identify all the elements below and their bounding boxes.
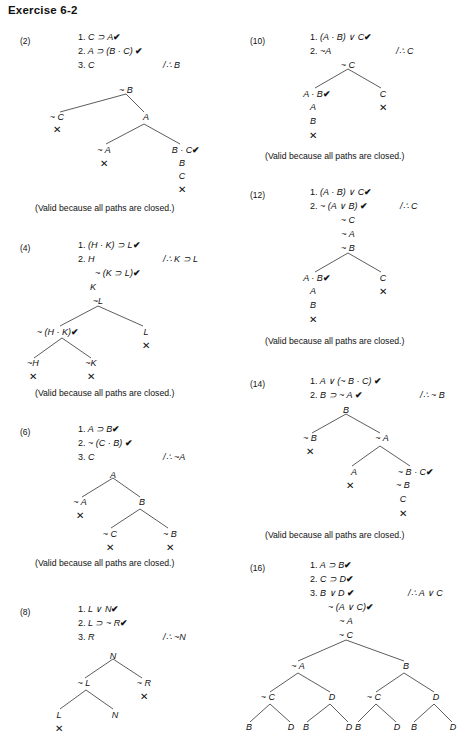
problem-number-2: (2): [20, 36, 30, 46]
premise-text: B ∨ D: [320, 588, 345, 598]
tree-node: ~ A: [73, 497, 86, 507]
premise-line: 1. A ∨ (~ B · C) ✔: [310, 376, 382, 386]
tree-node: ~ C: [341, 60, 355, 70]
closed-path-mark: ✕: [166, 542, 174, 553]
premise-line: 1. C ⊃ A✔: [78, 32, 121, 42]
tree-branches: [0, 0, 464, 738]
closed-path-mark: ✕: [76, 510, 84, 521]
tree-node: A · B✔: [303, 273, 331, 283]
conclusion: /∴ B: [163, 60, 180, 70]
premise-text: A ∨ (~ B · C): [320, 376, 372, 386]
premise-line: 3. B ∨ D ✔: [310, 588, 355, 598]
tree-node: ~ C: [103, 529, 117, 539]
line-number: 2.: [310, 390, 318, 400]
line-number: 3.: [78, 60, 86, 70]
premise-line: 3. C: [78, 60, 95, 70]
closed-path-mark: ✕: [309, 130, 317, 141]
tree-branches: [0, 0, 464, 738]
premise-line: 2. ~A: [310, 46, 331, 56]
validity-caption: (Valid because all paths are closed.): [35, 388, 174, 398]
tree-node: ~ C: [367, 692, 381, 702]
check-icon: ✔: [323, 273, 331, 283]
check-icon: ✔: [112, 424, 120, 434]
premise-text: (A · B) ∨ C: [320, 32, 364, 42]
line-number: 2.: [78, 438, 86, 448]
check-icon: ✔: [125, 438, 133, 448]
tree-branches: [0, 0, 464, 738]
tree-node: ~ B: [303, 433, 317, 443]
closed-path-mark: ✕: [379, 286, 387, 297]
tree-node: C: [179, 171, 186, 181]
tree-node: ~ C: [341, 215, 355, 225]
line-number: 2.: [310, 201, 318, 211]
line-number: 1.: [310, 32, 318, 42]
premise-line: 2. ~ (C · B) ✔: [78, 438, 133, 448]
problem-number-4: (4): [20, 243, 30, 253]
tree-node: ~ (A ∨ C)✔: [328, 602, 374, 612]
premise-text: R: [88, 632, 95, 642]
tree-node: A: [310, 286, 316, 296]
tree-node: D: [288, 722, 295, 732]
premise-line: 3. R: [78, 632, 95, 642]
premise-text: L ∨ N: [88, 604, 111, 614]
premise-text: C: [88, 60, 95, 70]
closed-path-mark: ✕: [53, 124, 61, 135]
problem-number-10: (10): [250, 36, 265, 46]
tree-node: A: [143, 112, 149, 122]
tree-node: C: [380, 273, 387, 283]
premise-text: (H · K) ⊃ L: [88, 240, 133, 250]
tree-node: ~L: [93, 296, 103, 306]
problem-number-12: (12): [250, 190, 265, 200]
tree-node: ~K: [85, 358, 96, 368]
exercise-page: Exercise 6-2 (2) 1. C ⊃ A✔ 2. A ⊃ (B · C…: [0, 0, 464, 738]
tree-node-text: ~ (K ⊃ L): [95, 268, 133, 278]
premise-line: 1. (A · B) ∨ C✔: [310, 32, 372, 42]
tree-node-text: ~ (H · K): [37, 327, 71, 337]
tree-branches: [0, 0, 464, 738]
line-number: 2.: [310, 574, 318, 584]
premise-line: 3. C: [78, 452, 95, 462]
tree-node: ~H: [27, 358, 39, 368]
tree-node: D: [394, 722, 401, 732]
check-icon: ✔: [364, 187, 372, 197]
closed-path-mark: ✕: [106, 542, 114, 553]
line-number: 1.: [78, 424, 86, 434]
conclusion: /∴ C: [400, 201, 418, 211]
tree-node: B: [179, 158, 185, 168]
problem-number-16: (16): [250, 563, 265, 573]
premise-line: 2. C ⊃ D✔: [310, 574, 354, 584]
tree-node: N: [112, 710, 119, 720]
line-number: 2.: [78, 618, 86, 628]
tree-node: ~ A: [375, 433, 388, 443]
premise-line: 1. A ⊃ B✔: [310, 560, 352, 570]
check-icon: ✔: [71, 327, 79, 337]
tree-node: B · C✔: [172, 145, 201, 155]
tree-node: ~ A: [341, 229, 354, 239]
page-title: Exercise 6-2: [8, 4, 78, 16]
validity-caption: (Valid because all paths are closed.): [35, 203, 174, 213]
premise-line: 2. L ⊃ ~ R✔: [78, 618, 128, 628]
premise-line: 2. ~ (A ∨ B) ✔: [310, 201, 368, 211]
premise-text: C: [88, 452, 95, 462]
premise-text: L ⊃ ~ R: [88, 618, 120, 628]
closed-path-mark: ✕: [142, 340, 150, 351]
check-icon: ✔: [355, 390, 363, 400]
tree-node: B: [310, 300, 316, 310]
line-number: 1.: [78, 32, 86, 42]
conclusion: /∴ A ∨ C: [408, 588, 443, 598]
check-icon: ✔: [192, 145, 200, 155]
check-icon: ✔: [346, 574, 354, 584]
line-number: 1.: [310, 376, 318, 386]
tree-branches: [0, 0, 464, 738]
premise-text: A ⊃ (B · C): [88, 46, 133, 56]
closed-path-mark: ✕: [346, 480, 354, 491]
conclusion: /∴ K ⊃ L: [163, 254, 198, 264]
tree-node: K: [90, 282, 96, 292]
premise-text: ~A: [320, 46, 331, 56]
tree-node: L: [56, 710, 61, 720]
closed-path-mark: ✕: [29, 371, 37, 382]
validity-caption: (Valid because all paths are closed.): [35, 558, 174, 568]
check-icon: ✔: [347, 588, 355, 598]
tree-node: B: [411, 722, 417, 732]
tree-branches: [0, 0, 464, 738]
